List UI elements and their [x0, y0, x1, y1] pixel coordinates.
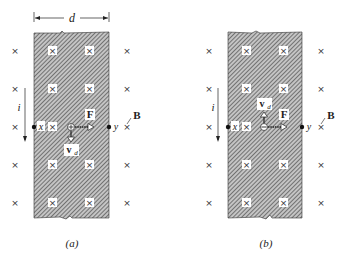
svg-text:×: ×	[49, 84, 57, 94]
point-x-dot	[226, 125, 230, 129]
svg-text:×: ×	[205, 160, 213, 170]
point-y-label: y	[306, 121, 312, 132]
velocity-label: v	[260, 98, 265, 109]
svg-text:×: ×	[11, 84, 19, 94]
current-arrow: i	[17, 88, 27, 142]
svg-text:×: ×	[123, 46, 131, 56]
panel-a: d × × × × × × × × × × × × × × × × × × ×	[11, 11, 141, 250]
svg-text:×: ×	[205, 46, 213, 56]
svg-text:×: ×	[11, 46, 19, 56]
svg-text:×: ×	[317, 198, 325, 208]
velocity-subscript: d	[267, 103, 271, 111]
point-x-label: x	[232, 121, 238, 132]
panel-b-caption: (b)	[260, 237, 273, 250]
svg-text:×: ×	[86, 160, 94, 170]
current-label: i	[211, 101, 214, 113]
width-label: d	[69, 11, 76, 25]
svg-text:×: ×	[49, 46, 57, 56]
svg-text:×: ×	[86, 46, 94, 56]
point-y-dot	[300, 125, 304, 129]
panel-b: × × × × × × × × × × × × × × × × × × × i	[205, 31, 335, 250]
svg-text:×: ×	[243, 46, 251, 56]
point-x-label: x	[38, 121, 44, 132]
svg-text:×: ×	[123, 198, 131, 208]
svg-text:×: ×	[11, 198, 19, 208]
svg-text:×: ×	[243, 84, 251, 94]
field-label: B	[327, 109, 335, 121]
svg-text:×: ×	[280, 84, 288, 94]
force-label: F	[87, 108, 94, 120]
velocity-subscript: d	[74, 149, 78, 157]
svg-text:×: ×	[86, 84, 94, 94]
svg-text:×: ×	[317, 46, 325, 56]
svg-text:×: ×	[205, 84, 213, 94]
charge-carrier-negative	[261, 124, 268, 131]
current-arrow: i	[211, 88, 220, 142]
svg-text:×: ×	[123, 160, 131, 170]
current-label: i	[17, 101, 20, 113]
velocity-label: v	[67, 144, 72, 155]
svg-text:×: ×	[205, 198, 213, 208]
svg-text:×: ×	[243, 160, 251, 170]
force-label: F	[281, 108, 288, 120]
hall-effect-diagram: d × × × × × × × × × × × × × × × × × × ×	[0, 0, 345, 264]
svg-text:×: ×	[49, 160, 57, 170]
svg-text:×: ×	[86, 198, 94, 208]
point-y-dot	[107, 125, 111, 129]
svg-text:×: ×	[11, 160, 19, 170]
svg-text:×: ×	[11, 122, 19, 132]
svg-text:×: ×	[317, 160, 325, 170]
panel-a-caption: (a)	[66, 237, 79, 250]
charge-carrier-positive	[68, 124, 75, 131]
point-y-label: y	[113, 121, 119, 132]
svg-text:×: ×	[280, 160, 288, 170]
svg-text:×: ×	[49, 122, 57, 132]
svg-text:×: ×	[49, 198, 57, 208]
svg-text:×: ×	[243, 198, 251, 208]
svg-text:×: ×	[317, 84, 325, 94]
svg-text:×: ×	[280, 46, 288, 56]
point-x-dot	[32, 125, 36, 129]
svg-text:×: ×	[243, 122, 251, 132]
svg-text:×: ×	[280, 198, 288, 208]
width-dimension: d	[34, 11, 109, 25]
svg-text:×: ×	[123, 84, 131, 94]
field-label: B	[133, 109, 141, 121]
svg-text:×: ×	[205, 122, 213, 132]
